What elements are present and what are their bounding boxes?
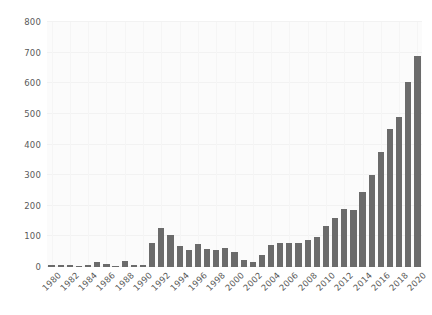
x-tick-label: 2014 — [351, 270, 374, 293]
bar — [369, 175, 375, 267]
bar — [268, 245, 274, 267]
bar — [195, 244, 201, 267]
x-tick-label: 2012 — [332, 270, 355, 293]
x-tick-label: 1992 — [149, 270, 172, 293]
bar — [341, 209, 347, 267]
x-tick-label: 1988 — [113, 270, 136, 293]
y-tick-label: 300 — [24, 170, 41, 180]
y-tick-label: 500 — [24, 109, 41, 119]
bars-group — [47, 22, 422, 267]
bar — [295, 243, 301, 268]
bar — [305, 240, 311, 267]
bar — [332, 218, 338, 267]
x-tick-label: 2004 — [259, 270, 282, 293]
bar — [222, 248, 228, 267]
bar — [177, 246, 183, 267]
bar — [323, 226, 329, 267]
plot-area — [47, 22, 422, 267]
y-tick-label: 600 — [24, 78, 41, 88]
x-tick-label: 2018 — [387, 270, 410, 293]
y-tick-label: 700 — [24, 48, 41, 58]
bar — [259, 255, 265, 267]
x-tick-label: 1996 — [186, 270, 209, 293]
bar — [350, 210, 356, 267]
bar — [286, 243, 292, 267]
bar — [414, 56, 420, 267]
y-tick-label: 200 — [24, 201, 41, 211]
x-tick-label: 2010 — [314, 270, 337, 293]
bar — [186, 250, 192, 267]
x-tick-label: 2008 — [296, 270, 319, 293]
x-tick-label: 1998 — [204, 270, 227, 293]
bar — [241, 260, 247, 267]
bar — [396, 117, 402, 267]
bar-chart: 0100200300400500600700800 19801982198419… — [0, 0, 432, 315]
x-tick-label: 2016 — [369, 270, 392, 293]
bar — [213, 250, 219, 267]
y-tick-label: 100 — [24, 231, 41, 241]
bar — [204, 249, 210, 267]
bar — [167, 235, 173, 267]
x-tick-label: 1994 — [168, 270, 191, 293]
x-tick-label: 1986 — [95, 270, 118, 293]
x-axis: 1980198219841986198819901992199419961998… — [47, 267, 422, 315]
y-tick-label: 0 — [35, 262, 41, 272]
bar — [387, 129, 393, 267]
x-tick-label: 2000 — [223, 270, 246, 293]
x-tick-label: 2002 — [241, 270, 264, 293]
bar — [314, 237, 320, 267]
x-tick-label: 2020 — [406, 270, 429, 293]
y-tick-label: 400 — [24, 140, 41, 150]
bar — [359, 192, 365, 267]
bar — [378, 152, 384, 267]
bar — [231, 252, 237, 267]
x-tick-label: 2006 — [278, 270, 301, 293]
x-tick-label: 1990 — [131, 270, 154, 293]
x-tick-label: 1982 — [58, 270, 81, 293]
bar — [149, 243, 155, 268]
x-tick-label: 1984 — [76, 270, 99, 293]
bar — [405, 82, 411, 267]
y-axis: 0100200300400500600700800 — [0, 0, 47, 289]
y-tick-label: 800 — [24, 17, 41, 27]
bar — [277, 243, 283, 268]
bar — [158, 228, 164, 267]
